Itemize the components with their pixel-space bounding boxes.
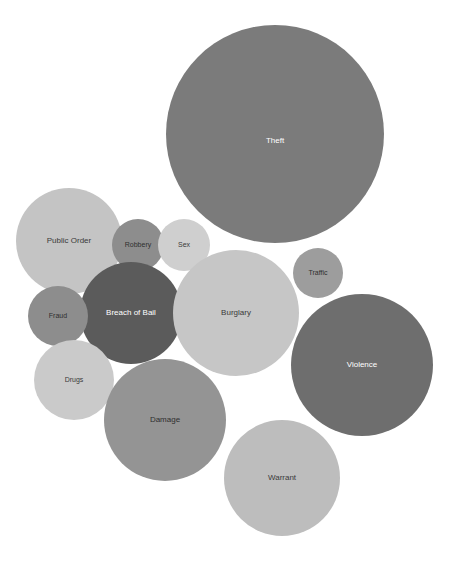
bubble-warrant[interactable]: Warrant	[224, 420, 340, 536]
bubble-traffic[interactable]: Traffic	[293, 248, 343, 298]
bubble-circle[interactable]	[28, 286, 88, 346]
bubble-drugs[interactable]: Drugs	[34, 340, 114, 420]
bubble-circle[interactable]	[166, 25, 384, 243]
bubble-damage[interactable]: Damage	[104, 359, 226, 481]
bubble-circle[interactable]	[224, 420, 340, 536]
bubble-burglary[interactable]: Burglary	[173, 250, 299, 376]
bubble-chart-figure: TheftPublic OrderRobberySexTrafficBreach…	[0, 0, 456, 565]
bubble-circle[interactable]	[173, 250, 299, 376]
bubble-circle[interactable]	[104, 359, 226, 481]
bubble-circle[interactable]	[291, 294, 433, 436]
bubble-chart-canvas: TheftPublic OrderRobberySexTrafficBreach…	[0, 0, 456, 565]
bubble-circle[interactable]	[293, 248, 343, 298]
bubble-theft[interactable]: Theft	[166, 25, 384, 243]
bubble-violence[interactable]: Violence	[291, 294, 433, 436]
bubble-circle[interactable]	[34, 340, 114, 420]
bubble-fraud[interactable]: Fraud	[28, 286, 88, 346]
